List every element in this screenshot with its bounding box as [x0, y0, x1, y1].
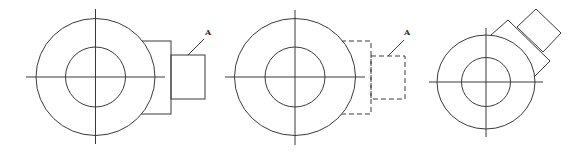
leader-line	[388, 40, 404, 56]
label-a: A	[403, 27, 411, 37]
label-a: A	[204, 27, 212, 37]
diagram-canvas: AA	[0, 0, 585, 156]
small-rect	[371, 56, 405, 99]
small-rect	[171, 55, 205, 99]
figure-1: A	[26, 9, 212, 144]
small-rect	[517, 9, 561, 52]
figure-2: A	[225, 10, 411, 145]
figure-3	[429, 9, 561, 137]
leader-line	[188, 39, 204, 55]
